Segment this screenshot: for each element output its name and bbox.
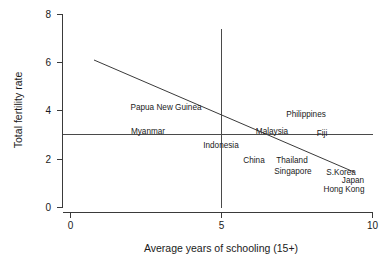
point-label-singapore: Singapore [274,167,312,176]
point-label-myanmar: Myanmar [131,127,165,136]
chart-figure: 8 6 4 2 0 Total fertility rate 0 5 10 Av… [0,0,390,261]
point-label-papua-new-guinea: Papua New Guinea [130,103,201,112]
point-label-china: China [243,156,265,165]
x-tick-label-5: 5 [219,220,225,231]
point-label-malaysia: Malaysia [256,127,289,136]
point-label-indonesia: Indonesia [203,141,239,150]
scatter-plot-canvas: 8 6 4 2 0 Total fertility rate 0 5 10 Av… [0,0,390,261]
point-label-japan: Japan [342,176,365,185]
y-tick-label-4: 4 [45,105,51,116]
y-tick-label-0: 0 [45,202,51,213]
y-tick-label-6: 6 [45,57,51,68]
y-axis-title: Total fertility rate [12,72,24,149]
x-tick-label-10: 10 [367,220,379,231]
x-tick-label-0: 0 [68,220,74,231]
point-label-hong-kong: Hong Kong [324,185,365,194]
y-tick-label-2: 2 [45,154,51,165]
point-label-fiji: Fiji [317,129,328,138]
x-axis-title: Average years of schooling (15+) [144,242,298,254]
point-label-philippines: Philippines [286,110,326,119]
point-label-thailand: Thailand [276,156,308,165]
y-tick-label-8: 8 [45,9,51,20]
